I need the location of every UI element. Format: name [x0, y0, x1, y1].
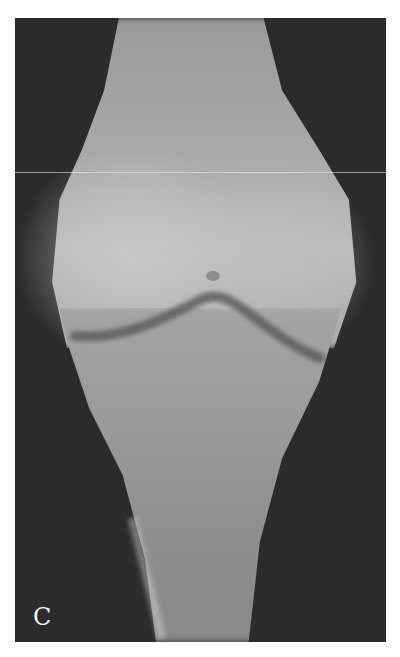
scan-artifact-line [15, 172, 386, 173]
xray-image: C [15, 18, 386, 642]
panel-label: C [33, 603, 51, 631]
joint-space [15, 18, 386, 642]
